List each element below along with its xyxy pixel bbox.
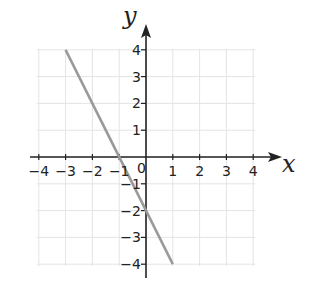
- y-tick-label: 2: [132, 95, 141, 111]
- x-tick-label: −2: [82, 163, 103, 179]
- origin-label: 0: [137, 160, 146, 176]
- coordinate-plane: −4−3−2−112344321−1−2−3−4 x y 0: [0, 0, 312, 287]
- x-tick-label: −4: [28, 163, 49, 179]
- y-axis-label: y: [122, 2, 137, 30]
- x-axis-label: x: [282, 150, 296, 178]
- x-tick-label: −3: [55, 163, 76, 179]
- y-tick-label: −4: [120, 256, 141, 272]
- x-tick-label: 3: [222, 163, 231, 179]
- x-tick-label: 2: [195, 163, 204, 179]
- y-tick-label: −1: [120, 176, 141, 192]
- axes: [30, 24, 282, 278]
- y-tick-label: 1: [132, 122, 141, 138]
- y-tick-label: 3: [132, 69, 141, 85]
- y-tick-label: −3: [120, 229, 141, 245]
- x-tick-label: 1: [168, 163, 177, 179]
- x-tick-label: 4: [249, 163, 258, 179]
- y-tick-label: 4: [132, 42, 141, 58]
- y-tick-label: −2: [120, 203, 141, 219]
